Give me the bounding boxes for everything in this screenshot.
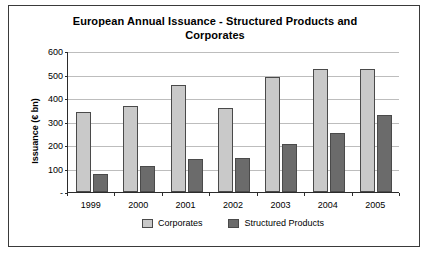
chart-title: European Annual Issuance - Structured Pr… [45,14,385,42]
x-axis-tick-label: 1999 [66,200,116,210]
y-axis-tick-label: 500 [19,71,63,81]
bar-structured-products-1999 [93,174,108,192]
x-axis-tick-label: 2003 [255,200,305,210]
x-axis-tickmark [114,193,115,196]
bar-corporates-2003 [265,77,280,192]
bar-structured-products-2003 [282,144,297,192]
bar-corporates-2002 [218,108,233,192]
bar-structured-products-2002 [235,158,250,192]
legend-item-corporates: Corporates [142,218,203,228]
legend-swatch [142,219,153,228]
x-axis-tickmark [209,193,210,196]
bar-group [258,52,305,192]
x-axis-tickmark [162,193,163,196]
legend-label: Structured Products [244,218,324,228]
chart-container: European Annual Issuance - Structured Pr… [8,5,420,247]
x-axis-tickmark [399,193,400,196]
y-axis-tick-label: - [19,188,63,198]
bar-structured-products-2004 [330,133,345,192]
bar-corporates-2004 [313,69,328,192]
x-axis-tickmark [304,193,305,196]
bar-structured-products-2000 [140,166,155,192]
chart-legend: CorporatesStructured Products [67,218,399,228]
legend-swatch [228,219,239,228]
bar-corporates-2001 [171,85,186,192]
x-axis-tick-label: 2005 [350,200,400,210]
x-axis-tick-label: 2001 [161,200,211,210]
plot-area [67,52,399,193]
y-axis-tick-label: 600 [19,47,63,57]
x-axis-tick-label: 2000 [113,200,163,210]
x-axis-tickmark [352,193,353,196]
bar-group [163,52,210,192]
bar-group [353,52,400,192]
bar-group [305,52,352,192]
bar-corporates-2000 [123,106,138,192]
bar-corporates-2005 [360,69,375,192]
y-axis-tick-label: 400 [19,94,63,104]
bar-corporates-1999 [76,112,91,192]
x-axis-tickmark [67,193,68,196]
legend-label: Corporates [158,218,203,228]
y-axis-tick-label: 200 [19,141,63,151]
y-axis-tick-labels: -100200300400500600 [17,52,63,193]
bar-structured-products-2001 [188,159,203,192]
x-axis-tick-label: 2002 [208,200,258,210]
x-axis-tick-label: 2004 [303,200,353,210]
bar-group [115,52,162,192]
bar-group [210,52,257,192]
y-axis-tick-label: 100 [19,165,63,175]
legend-item-structured-products: Structured Products [228,218,324,228]
x-axis-tickmark [257,193,258,196]
bar-structured-products-2005 [377,115,392,192]
y-axis-tick-label: 300 [19,118,63,128]
bar-group [68,52,115,192]
